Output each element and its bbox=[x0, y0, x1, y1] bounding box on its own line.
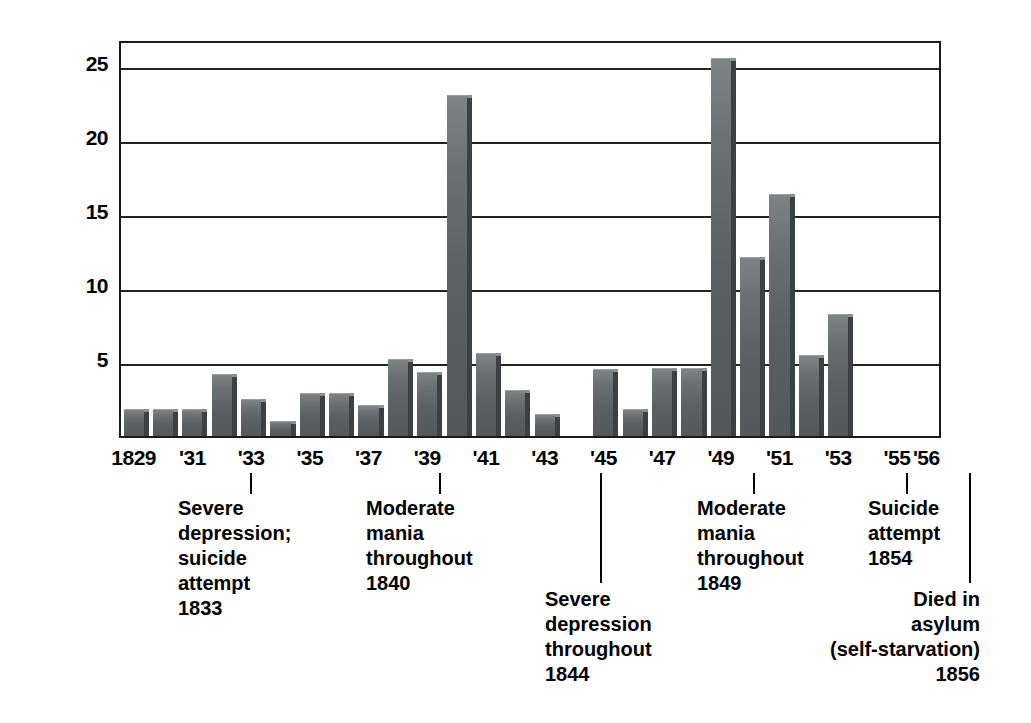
bar-side bbox=[320, 396, 325, 436]
bar-cap bbox=[496, 353, 501, 356]
bar-side bbox=[467, 98, 472, 436]
bar-1829[interactable] bbox=[124, 409, 149, 436]
bar-1847[interactable] bbox=[652, 368, 677, 436]
bar-1836[interactable] bbox=[329, 393, 354, 436]
bar-cap bbox=[613, 369, 618, 372]
leader-line-1844 bbox=[600, 473, 602, 583]
annotation-1849: Moderate mania throughout 1849 bbox=[697, 496, 804, 596]
plot-area bbox=[119, 41, 941, 438]
bar-face bbox=[652, 368, 672, 436]
bar-cap bbox=[232, 374, 237, 377]
bar-series bbox=[121, 43, 939, 436]
bar-side bbox=[702, 371, 707, 436]
bar-face bbox=[270, 421, 290, 436]
bar-1846[interactable] bbox=[623, 409, 648, 436]
bar-cap bbox=[320, 393, 325, 396]
bar-1842[interactable] bbox=[505, 390, 530, 436]
bar-side bbox=[202, 412, 207, 436]
bar-face bbox=[388, 359, 408, 436]
bar-cap bbox=[261, 399, 266, 402]
bar-1848[interactable] bbox=[681, 368, 706, 436]
y-tick-label-25: 25 bbox=[62, 52, 108, 76]
bar-1851[interactable] bbox=[769, 194, 794, 436]
leader-line-1849 bbox=[753, 473, 755, 494]
bar-face bbox=[740, 257, 760, 436]
bar-side bbox=[731, 61, 736, 436]
bar-cap bbox=[173, 409, 178, 412]
bar-side bbox=[555, 417, 560, 436]
bar-1841[interactable] bbox=[476, 353, 501, 436]
bar-1852[interactable] bbox=[799, 355, 824, 437]
bar-face bbox=[505, 390, 525, 436]
bar-1838[interactable] bbox=[388, 359, 413, 436]
bar-cap bbox=[144, 409, 149, 412]
annotation-1840: Moderate mania throughout 1840 bbox=[366, 496, 473, 596]
bar-cap bbox=[702, 368, 707, 371]
annotation-1856: Died in asylum (self-starvation) 1856 bbox=[725, 587, 980, 687]
bar-1853[interactable] bbox=[828, 314, 853, 436]
bar-cap bbox=[525, 390, 530, 393]
bar-face bbox=[828, 314, 848, 436]
leader-line-1833 bbox=[250, 473, 252, 494]
bar-side bbox=[349, 396, 354, 436]
bar-cap bbox=[437, 372, 442, 375]
bar-side bbox=[291, 424, 296, 436]
bar-side bbox=[496, 356, 501, 436]
bar-cap bbox=[760, 257, 765, 260]
bar-side bbox=[525, 393, 530, 436]
x-tick-label-1856: '56 bbox=[881, 446, 971, 470]
bar-side bbox=[790, 197, 795, 436]
bar-cap bbox=[848, 314, 853, 317]
bar-side bbox=[760, 260, 765, 436]
bar-cap bbox=[790, 194, 795, 197]
bar-face bbox=[153, 409, 173, 436]
y-tick-label-10: 10 bbox=[62, 274, 108, 298]
bar-1845[interactable] bbox=[593, 369, 618, 436]
bar-side bbox=[173, 412, 178, 436]
bar-side bbox=[232, 377, 237, 436]
bar-face bbox=[799, 355, 819, 437]
bar-1832[interactable] bbox=[212, 374, 237, 436]
bar-side bbox=[144, 412, 149, 436]
bar-cap bbox=[202, 409, 207, 412]
bar-face bbox=[124, 409, 144, 436]
bar-face bbox=[417, 372, 437, 436]
y-tick-label-15: 15 bbox=[62, 200, 108, 224]
annotation-1833: Severe depression; suicide attempt 1833 bbox=[178, 496, 291, 621]
bar-cap bbox=[819, 355, 824, 358]
bar-1850[interactable] bbox=[740, 257, 765, 436]
bar-cap bbox=[349, 393, 354, 396]
leader-line-1840 bbox=[439, 473, 441, 494]
bar-face bbox=[358, 405, 378, 436]
bar-side bbox=[848, 317, 853, 436]
bar-cap bbox=[408, 359, 413, 362]
bar-side bbox=[408, 362, 413, 436]
bar-face bbox=[447, 95, 467, 436]
bar-1835[interactable] bbox=[300, 393, 325, 436]
bar-1843[interactable] bbox=[535, 414, 560, 436]
bar-1849[interactable] bbox=[711, 58, 736, 436]
leader-line-1854 bbox=[906, 473, 908, 494]
bar-face bbox=[476, 353, 496, 436]
bar-1840[interactable] bbox=[447, 95, 472, 436]
bar-face bbox=[329, 393, 349, 436]
bar-cap bbox=[467, 95, 472, 98]
bar-face bbox=[212, 374, 232, 436]
bar-face bbox=[535, 414, 555, 436]
bar-1830[interactable] bbox=[153, 409, 178, 436]
bar-side bbox=[379, 408, 384, 436]
bar-1837[interactable] bbox=[358, 405, 383, 436]
bar-face bbox=[681, 368, 701, 436]
annotation-1844: Severe depression throughout 1844 bbox=[545, 587, 652, 687]
bar-side bbox=[643, 412, 648, 436]
bar-cap bbox=[555, 414, 560, 417]
bar-1839[interactable] bbox=[417, 372, 442, 436]
bar-1831[interactable] bbox=[182, 409, 207, 436]
annotation-1854: Suicide attempt 1854 bbox=[868, 496, 940, 571]
bar-side bbox=[672, 371, 677, 436]
bar-cap bbox=[379, 405, 384, 408]
bar-1833[interactable] bbox=[241, 399, 266, 436]
bar-side bbox=[437, 375, 442, 436]
bar-face bbox=[182, 409, 202, 436]
bar-1834[interactable] bbox=[270, 421, 295, 436]
